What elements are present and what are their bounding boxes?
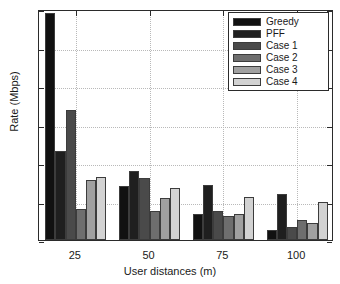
legend-label: Case 1 <box>266 41 298 51</box>
bar-pff-75 <box>203 185 213 240</box>
legend-swatch-icon <box>233 66 261 74</box>
bar-greedy-25 <box>45 13 55 240</box>
bar-case-2-100 <box>297 220 307 240</box>
bar-case-1-100 <box>287 227 297 240</box>
bar-greedy-50 <box>119 186 129 240</box>
bar-pff-25 <box>55 151 65 240</box>
legend-item-case-2: Case 2 <box>233 52 325 63</box>
bar-case-1-50 <box>139 178 149 240</box>
bar-case-3-100 <box>307 223 317 240</box>
x-axis-title: User distances (m) <box>0 266 340 277</box>
legend: GreedyPFFCase 1Case 2Case 3Case 4 <box>228 12 329 91</box>
y-tick-mark <box>39 242 44 243</box>
bar-case-3-50 <box>160 198 170 240</box>
bar-case-4-50 <box>170 188 180 240</box>
bar-greedy-75 <box>193 214 203 240</box>
bar-pff-100 <box>277 194 287 240</box>
legend-item-greedy: Greedy <box>233 16 325 27</box>
y-tick-mark <box>327 242 332 243</box>
legend-swatch-icon <box>233 78 261 86</box>
x-tick-label: 25 <box>55 250 95 261</box>
bar-case-2-25 <box>76 209 86 240</box>
legend-swatch-icon <box>233 30 261 38</box>
x-tick-label: 100 <box>276 250 316 261</box>
bar-pff-50 <box>129 171 139 240</box>
legend-label: Case 2 <box>266 53 298 63</box>
legend-item-case-3: Case 3 <box>233 64 325 75</box>
bar-greedy-100 <box>267 230 277 240</box>
bar-case-3-25 <box>86 180 96 240</box>
legend-item-case-1: Case 1 <box>233 40 325 51</box>
legend-label: PFF <box>266 29 285 39</box>
bar-chart-figure: Rate (Mbps) User distances (m) 010203040… <box>0 0 340 284</box>
legend-swatch-icon <box>233 18 261 26</box>
legend-item-case-4: Case 4 <box>233 76 325 87</box>
bar-case-4-25 <box>96 177 106 240</box>
legend-label: Greedy <box>266 17 299 27</box>
legend-label: Case 3 <box>266 65 298 75</box>
x-tick-label: 50 <box>129 250 169 261</box>
x-tick-label: 75 <box>202 250 242 261</box>
legend-label: Case 4 <box>266 77 298 87</box>
bar-case-1-75 <box>213 211 223 240</box>
bar-case-3-75 <box>234 214 244 240</box>
bar-case-4-100 <box>318 202 328 240</box>
bar-case-2-50 <box>150 211 160 240</box>
legend-item-pff: PFF <box>233 28 325 39</box>
bar-case-4-75 <box>244 197 254 240</box>
bar-case-1-25 <box>66 110 76 240</box>
bar-case-2-75 <box>223 216 233 240</box>
y-axis-title: Rate (Mbps) <box>9 42 20 162</box>
legend-swatch-icon <box>233 54 261 62</box>
legend-swatch-icon <box>233 42 261 50</box>
